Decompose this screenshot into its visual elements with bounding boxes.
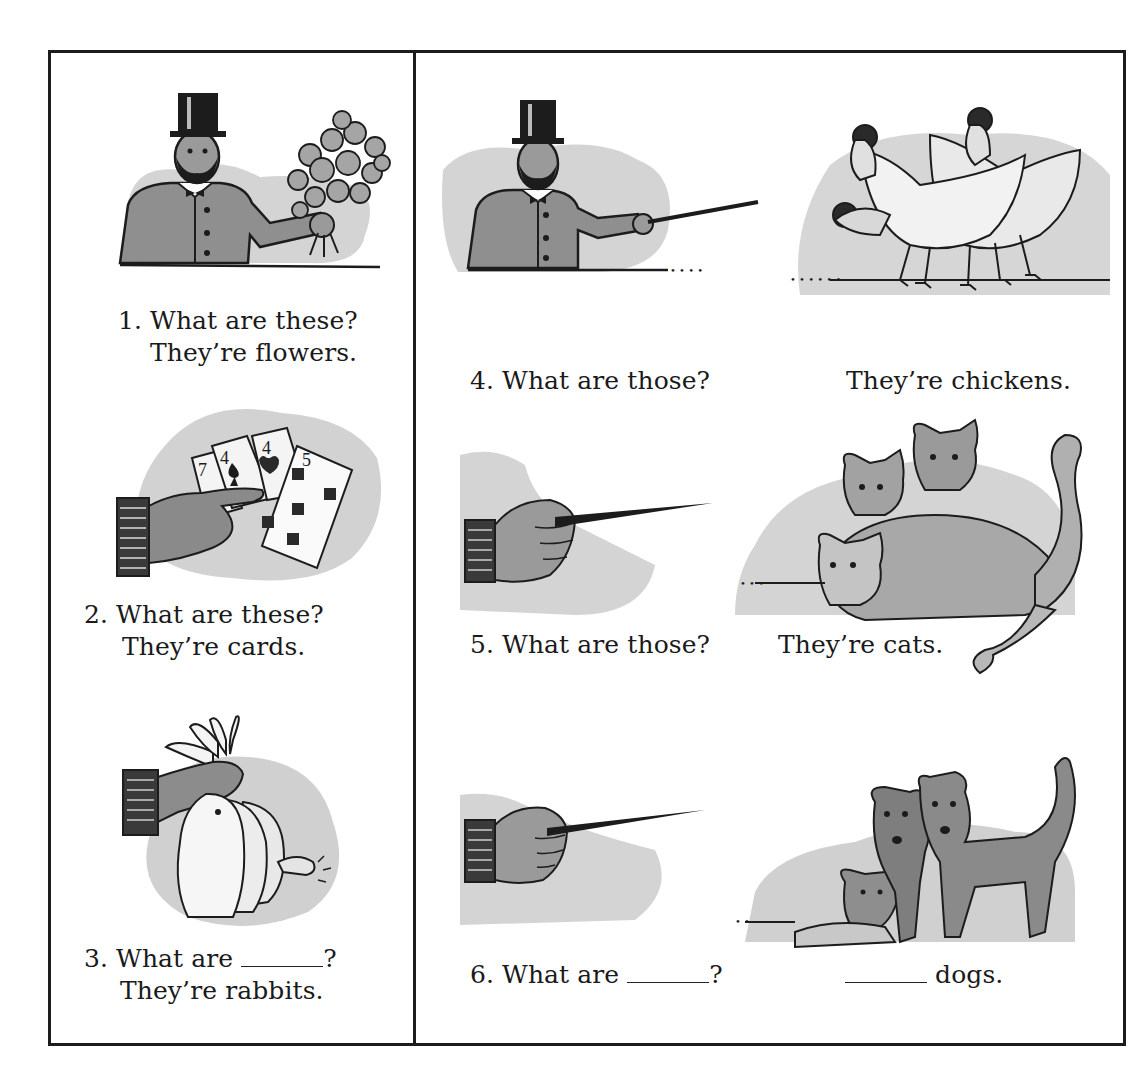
man-pointing-illustration: • • • • <box>438 90 768 280</box>
answer-blank[interactable] <box>845 978 927 983</box>
svg-text:7: 7 <box>198 460 207 480</box>
item-4-question: 4. What are those? <box>470 366 710 396</box>
man-with-flowers-illustration <box>110 85 400 275</box>
hand-pointing-illustration <box>455 445 725 620</box>
item-number: 4. <box>470 366 494 395</box>
chickens-illustration: • • • • • • <box>790 95 1120 305</box>
item-number: 2. <box>84 600 108 629</box>
column-divider <box>413 50 416 1046</box>
question-text: What are those? <box>502 630 710 659</box>
question-text: What are <box>502 960 619 989</box>
question-mark: ? <box>709 960 723 989</box>
svg-text:• • •: • • • <box>740 578 764 589</box>
question-text: What are these? <box>150 306 358 335</box>
svg-text:4: 4 <box>262 438 271 458</box>
item-5-question: 5. What are those? <box>470 630 710 660</box>
hand-pointing-illustration <box>455 790 725 930</box>
item-3-question: 3. What are ? <box>84 944 337 974</box>
item-number: 5. <box>470 630 494 659</box>
item-number: 3. <box>84 944 108 973</box>
answer-text: dogs. <box>935 960 1003 989</box>
item-6-answer: dogs. <box>845 960 1003 990</box>
item-2-answer: They’re cards. <box>122 632 305 662</box>
svg-text:• • • • • •: • • • • • • <box>790 274 841 285</box>
item-1-answer: They’re flowers. <box>150 338 357 368</box>
answer-blank[interactable] <box>627 978 709 983</box>
question-text: What are those? <box>502 366 710 395</box>
item-2-question: 2. What are these? <box>84 600 324 630</box>
hand-with-cards-illustration: 7 4 4 5 <box>112 398 392 588</box>
item-6-question: 6. What are ? <box>470 960 723 990</box>
question-text: What are these? <box>116 600 324 629</box>
question-text: What are <box>116 944 233 973</box>
item-1-question: 1. What are these? <box>118 306 358 336</box>
item-number: 1. <box>118 306 142 335</box>
item-3-answer: They’re rabbits. <box>120 976 324 1006</box>
item-5-answer: They’re cats. <box>778 630 943 660</box>
svg-text:4: 4 <box>220 448 229 468</box>
hand-with-rabbits-illustration <box>118 712 378 937</box>
item-number: 6. <box>470 960 494 989</box>
dogs-illustration: • • <box>735 742 1095 962</box>
svg-text:• •: • • <box>735 916 750 927</box>
question-mark: ? <box>323 944 337 973</box>
item-4-answer: They’re chickens. <box>846 366 1071 396</box>
svg-text:• • • •: • • • • <box>670 265 703 276</box>
svg-text:5: 5 <box>302 450 311 470</box>
answer-blank[interactable] <box>241 962 323 967</box>
